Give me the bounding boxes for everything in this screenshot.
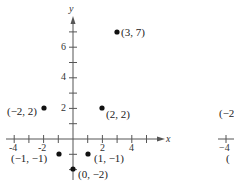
y-tick-label: 4 (61, 71, 66, 82)
point-label: (1, −1) (94, 152, 124, 165)
data-point (114, 29, 119, 34)
x-tick-label: 4 (129, 142, 134, 153)
data-point (56, 151, 61, 156)
adjacent-figure-fragment: (−2 −4 ( (218, 107, 234, 165)
point-label: (0, −2) (78, 168, 108, 181)
point-label: (3, 7) (121, 26, 145, 39)
x-axis-arrow-icon (157, 137, 165, 142)
scatter-plot: x y -4 -2 2 4 2 4 6 (3, 7) (−2, 2) (2, 2… (0, 0, 234, 186)
y-tick-label: 6 (61, 41, 66, 52)
y-axis-label: y (68, 3, 74, 14)
point-label: (−2, 2) (7, 105, 37, 118)
point-label: (2, 2) (106, 108, 130, 121)
axis-ticks (14, 32, 146, 170)
y-axis-arrow-icon (71, 16, 76, 24)
x-axis-label: x (165, 133, 171, 144)
data-point (85, 151, 90, 156)
fragment-text: (−2 (219, 107, 234, 120)
fragment-text: ( (226, 152, 230, 165)
data-point (70, 166, 75, 171)
point-label: (−1, −1) (11, 152, 48, 165)
data-point (99, 105, 104, 110)
y-tick-label: 2 (61, 102, 66, 113)
data-point (41, 105, 46, 110)
data-points: (3, 7) (−2, 2) (2, 2) (−1, −1) (1, −1) (… (7, 26, 145, 181)
axis-tick-labels: -4 -2 2 4 2 4 6 (9, 41, 134, 153)
